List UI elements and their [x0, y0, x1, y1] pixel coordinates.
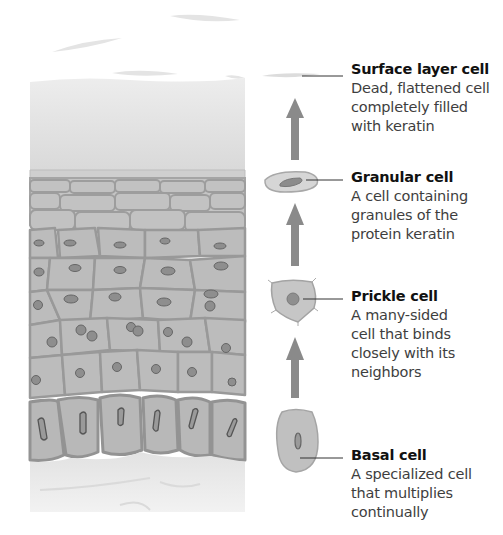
prickle-cell-icon — [268, 278, 343, 326]
stage-desc-line: that multiplies — [351, 484, 472, 503]
arrow-up-icon — [286, 337, 304, 398]
stage-desc-line: Dead, flattened cell — [351, 79, 490, 98]
flake-shape — [170, 15, 240, 22]
basal-cell-icon — [277, 410, 343, 473]
stage-desc-line: A specialized cell — [351, 465, 472, 484]
stage-title: Prickle cell — [351, 287, 455, 306]
stage-desc-line: neighbors — [351, 363, 455, 382]
stage-desc-line: protein keratin — [351, 225, 468, 244]
stage-title: Basal cell — [351, 446, 472, 465]
stage-desc-line: A cell containing — [351, 187, 468, 206]
arrow-up-icon — [286, 203, 304, 266]
granular-cell-icon — [265, 172, 343, 192]
stage-desc-line: continually — [351, 503, 472, 522]
stage-desc-line: A many-sided — [351, 306, 455, 325]
label-prickle-cell: Prickle cell A many-sided cell that bind… — [351, 287, 455, 382]
label-basal-cell: Basal cell A specialized cell that multi… — [351, 446, 472, 522]
stage-title: Surface layer cell — [351, 60, 490, 79]
stage-desc-line: with keratin — [351, 117, 490, 136]
cell-stage-icons — [255, 0, 355, 535]
flake-shape — [52, 38, 122, 52]
stage-desc-line: cell that binds — [351, 325, 455, 344]
stage-desc-line: granules of the — [351, 206, 468, 225]
epidermis-tissue-illustration — [0, 0, 260, 535]
surface-cell-icon — [262, 73, 343, 77]
stage-desc-line: completely filled — [351, 98, 490, 117]
arrow-up-icon — [286, 98, 304, 160]
stage-title: Granular cell — [351, 168, 468, 187]
label-surface-layer-cell: Surface layer cell Dead, flattened cell … — [351, 60, 490, 136]
label-granular-cell: Granular cell A cell containing granules… — [351, 168, 468, 244]
stage-desc-line: closely with its — [351, 344, 455, 363]
